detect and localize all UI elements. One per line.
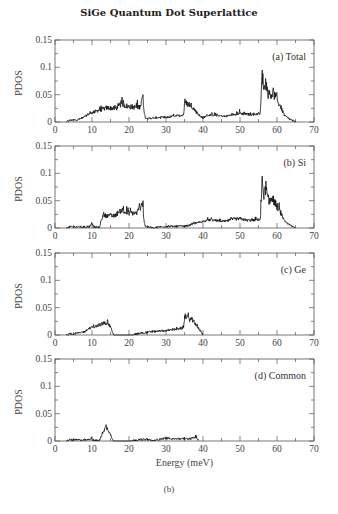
y-tick-label: 0.1 (40, 168, 52, 178)
x-tick-label: 50 (235, 231, 245, 241)
x-tick-label: 20 (124, 444, 134, 454)
plot-frame (55, 146, 314, 228)
x-tick-label: 60 (272, 444, 282, 454)
panel-ge: 01020304050607000.050.10.15PDOS(c) Ge (13, 248, 319, 348)
pdos-curve (66, 70, 295, 122)
plot-frame (55, 253, 314, 335)
x-tick-label: 30 (161, 338, 171, 348)
pdos-curve (66, 425, 199, 441)
panel-label: (b) Si (284, 157, 307, 169)
x-tick-label: 60 (272, 125, 282, 135)
x-tick-label: 40 (198, 125, 208, 135)
x-tick-label: 0 (53, 338, 58, 348)
y-tick-label: 0 (47, 436, 52, 446)
x-axis-label: Energy (meV) (55, 457, 314, 468)
x-tick-label: 70 (309, 231, 319, 241)
x-tick-label: 30 (161, 125, 171, 135)
x-tick-label: 70 (309, 338, 319, 348)
y-tick-label: 0.15 (35, 354, 52, 364)
x-tick-label: 50 (235, 444, 245, 454)
x-tick-label: 60 (272, 231, 282, 241)
y-axis-label: PDOS (13, 283, 24, 309)
x-tick-label: 50 (235, 125, 245, 135)
panel-total: 01020304050607000.050.10.15PDOS(a) Total (13, 35, 319, 135)
x-tick-label: 60 (272, 338, 282, 348)
y-tick-label: 0.15 (35, 141, 52, 151)
x-tick-label: 70 (309, 444, 319, 454)
x-tick-label: 40 (198, 444, 208, 454)
y-tick-label: 0.05 (35, 303, 52, 313)
y-tick-label: 0.1 (40, 62, 52, 72)
figure-caption: (b) (0, 484, 338, 494)
x-tick-label: 20 (124, 231, 134, 241)
x-tick-label: 30 (161, 231, 171, 241)
x-tick-label: 0 (53, 444, 58, 454)
x-tick-label: 40 (198, 338, 208, 348)
y-tick-label: 0.1 (40, 275, 52, 285)
x-tick-label: 70 (309, 125, 319, 135)
panel-common: 01020304050607000.050.10.15PDOS(d) Commo… (13, 354, 319, 454)
x-tick-label: 10 (87, 338, 97, 348)
y-tick-label: 0 (47, 330, 52, 340)
y-tick-label: 0.1 (40, 381, 52, 391)
y-tick-label: 0.05 (35, 409, 52, 419)
panel-si: 01020304050607000.050.10.15PDOS(b) Si (13, 141, 319, 241)
panel-label: (c) Ge (281, 264, 307, 276)
x-tick-label: 0 (53, 125, 58, 135)
y-tick-label: 0.05 (35, 90, 52, 100)
y-tick-label: 0 (47, 117, 52, 127)
y-tick-label: 0.05 (35, 196, 52, 206)
pdos-curve (66, 313, 203, 335)
y-tick-label: 0 (47, 223, 52, 233)
x-tick-label: 0 (53, 231, 58, 241)
x-tick-label: 30 (161, 444, 171, 454)
x-tick-label: 20 (124, 125, 134, 135)
x-tick-label: 40 (198, 231, 208, 241)
x-tick-label: 10 (87, 231, 97, 241)
y-axis-label: PDOS (13, 389, 24, 415)
y-axis-label: PDOS (13, 176, 24, 202)
x-tick-label: 10 (87, 444, 97, 454)
y-tick-label: 0.15 (35, 35, 52, 45)
x-tick-label: 50 (235, 338, 245, 348)
x-tick-label: 10 (87, 125, 97, 135)
x-tick-label: 20 (124, 338, 134, 348)
panel-label: (a) Total (272, 51, 306, 63)
panel-label: (d) Common (255, 370, 306, 382)
pdos-curve (66, 176, 295, 228)
figure-canvas: 01020304050607000.050.10.15PDOS(a) Total… (0, 0, 338, 514)
y-tick-label: 0.15 (35, 248, 52, 258)
y-axis-label: PDOS (13, 70, 24, 96)
